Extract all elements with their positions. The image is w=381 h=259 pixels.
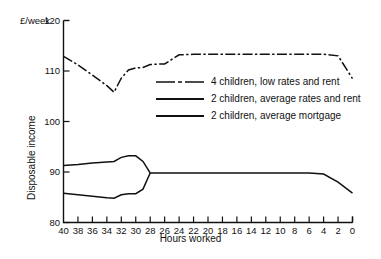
legend-label: 4 children, low rates and rent <box>211 76 339 87</box>
y-tick-label: 100 <box>30 117 60 127</box>
y-tick-label: 120 <box>30 16 60 26</box>
y-tick-label: 90 <box>30 167 60 177</box>
legend-key-solid-icon <box>156 94 204 104</box>
chart-legend: 4 children, low rates and rent 2 childre… <box>156 73 371 124</box>
series-line <box>64 173 151 198</box>
legend-label: 2 children, average mortgage <box>211 110 341 121</box>
legend-key-solid-icon <box>156 111 204 121</box>
series-line <box>64 156 353 193</box>
x-tick-label: 0 <box>343 226 363 236</box>
legend-label: 2 children, average rates and rent <box>211 93 361 104</box>
y-tick-label: 110 <box>30 66 60 76</box>
chart-container: £/week Disposable income Hours worked 80… <box>0 0 381 259</box>
legend-key-dash-dot-icon <box>156 77 204 87</box>
legend-item: 2 children, average rates and rent <box>156 90 371 107</box>
legend-item: 4 children, low rates and rent <box>156 73 371 90</box>
legend-item: 2 children, average mortgage <box>156 107 371 124</box>
